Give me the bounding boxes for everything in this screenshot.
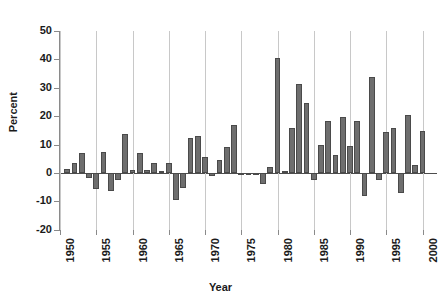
bar-1963 — [151, 163, 157, 173]
x-tick-mark-1970 — [205, 230, 206, 235]
x-axis-label: Year — [0, 282, 441, 293]
bar-1957 — [108, 173, 114, 191]
bar-1976 — [246, 173, 252, 175]
bar-1964 — [159, 171, 165, 173]
y-tick-label--20: -20 — [4, 224, 52, 235]
x-tick-mark-2000 — [423, 230, 424, 235]
x-tick-label-1990: 1990 — [355, 238, 366, 262]
bar-1973 — [224, 147, 230, 173]
x-tick-mark-1980 — [278, 230, 279, 235]
bar-1982 — [289, 128, 295, 173]
y-tick-label-50: 50 — [4, 25, 52, 36]
y-tick-mark-10 — [54, 145, 60, 146]
x-tick-label-2000: 2000 — [428, 238, 439, 262]
bar-1951 — [64, 169, 70, 173]
bar-1996 — [391, 128, 397, 173]
bar-1988 — [333, 155, 339, 173]
bar-1969 — [195, 136, 201, 173]
bar-1956 — [101, 152, 107, 173]
bar-1990 — [347, 146, 353, 173]
x-tick-mark-1965 — [169, 230, 170, 235]
x-tick-label-1960: 1960 — [138, 238, 149, 262]
x-tick-mark-1955 — [96, 230, 97, 235]
bar-1954 — [86, 173, 92, 178]
y-tick-mark-50 — [54, 31, 60, 32]
x-tick-label-1950: 1950 — [65, 238, 76, 262]
x-tick-label-1965: 1965 — [174, 238, 185, 262]
bar-1997 — [398, 173, 404, 193]
gridline-1975 — [241, 31, 242, 230]
x-tick-label-1955: 1955 — [101, 238, 112, 262]
bar-1955 — [93, 173, 99, 189]
bar-1984 — [304, 103, 310, 173]
gridline-1960 — [133, 31, 134, 230]
bar-1975 — [238, 173, 244, 175]
y-tick-mark-20 — [54, 116, 60, 117]
y-tick-label-40: 40 — [4, 53, 52, 64]
bar-1965 — [166, 163, 172, 173]
x-tick-mark-1995 — [386, 230, 387, 235]
bar-1979 — [267, 167, 273, 173]
bar-1985 — [311, 173, 317, 180]
x-tick-label-1995: 1995 — [391, 238, 402, 262]
gridline-1990 — [350, 31, 351, 230]
gridline-1950 — [60, 31, 61, 230]
bar-1961 — [137, 153, 143, 173]
bar-1998 — [405, 115, 411, 173]
bar-1989 — [340, 117, 346, 173]
bar-1999 — [412, 165, 418, 173]
x-tick-mark-1990 — [350, 230, 351, 235]
gridline-1995 — [386, 31, 387, 230]
bar-1977 — [253, 173, 259, 175]
bar-1992 — [362, 173, 368, 196]
x-tick-mark-1960 — [133, 230, 134, 235]
y-tick-label-0: 0 — [4, 167, 52, 178]
bar-1986 — [318, 145, 324, 173]
x-tick-label-1970: 1970 — [210, 238, 221, 262]
y-tick-mark-30 — [54, 88, 60, 89]
x-tick-mark-1985 — [314, 230, 315, 235]
bar-1980 — [275, 58, 281, 173]
x-tick-mark-1950 — [60, 230, 61, 235]
bar-chart-figure: 50403020100-10-20 1950195519601965197019… — [0, 0, 441, 298]
y-tick-mark-0 — [54, 173, 60, 174]
x-tick-label-1980: 1980 — [283, 238, 294, 262]
bar-1959 — [122, 134, 128, 173]
bar-1962 — [144, 170, 150, 173]
bar-1993 — [369, 77, 375, 173]
bar-1966 — [173, 173, 179, 200]
bar-1970 — [202, 157, 208, 173]
bar-1994 — [376, 173, 382, 180]
bar-1968 — [188, 138, 194, 173]
bar-1952 — [72, 163, 78, 173]
bar-2000 — [420, 131, 426, 173]
y-tick-label-10: 10 — [4, 139, 52, 150]
bar-1958 — [115, 173, 121, 180]
x-tick-mark-1975 — [241, 230, 242, 235]
bar-1995 — [383, 132, 389, 173]
bar-1991 — [354, 121, 360, 173]
gridline-1955 — [96, 31, 97, 230]
bar-1972 — [217, 160, 223, 173]
bar-1987 — [325, 121, 331, 173]
bar-1967 — [180, 173, 186, 188]
y-tick-mark-40 — [54, 59, 60, 60]
bar-1971 — [209, 173, 215, 176]
y-tick-label--10: -10 — [4, 195, 52, 206]
gridline-1970 — [205, 31, 206, 230]
bar-1960 — [130, 170, 136, 173]
bar-1974 — [231, 125, 237, 173]
y-tick-mark--10 — [54, 201, 60, 202]
x-tick-label-1975: 1975 — [246, 238, 257, 262]
bar-1978 — [260, 173, 266, 184]
bar-1983 — [296, 84, 302, 173]
bar-1981 — [282, 171, 288, 173]
bar-1953 — [79, 153, 85, 173]
gridline-1965 — [169, 31, 170, 230]
y-axis-label: Percent — [8, 92, 19, 132]
gridline-1985 — [314, 31, 315, 230]
x-tick-label-1985: 1985 — [319, 238, 330, 262]
